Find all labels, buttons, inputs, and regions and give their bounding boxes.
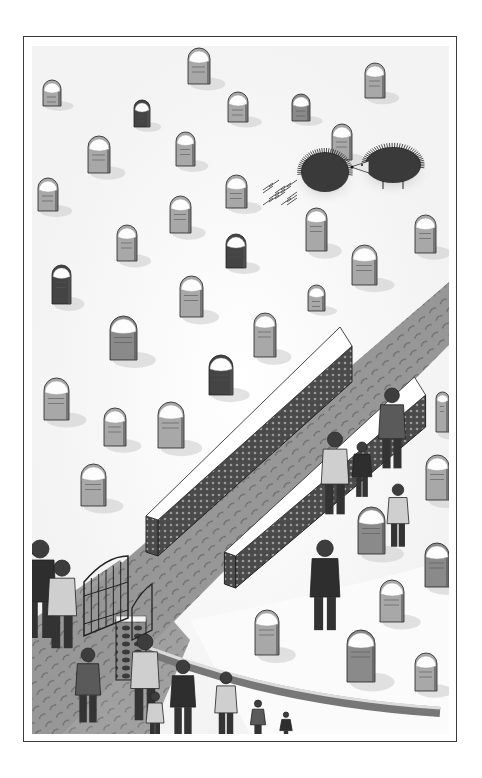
churchyard-illustration bbox=[0, 0, 482, 778]
tombstone bbox=[436, 392, 458, 439]
tombstone bbox=[425, 543, 466, 595]
tombstone bbox=[426, 455, 465, 508]
